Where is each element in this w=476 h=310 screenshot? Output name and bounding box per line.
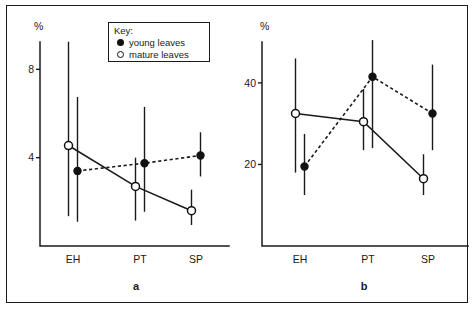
open-circle-icon — [114, 51, 126, 58]
legend-label-young-leaves: young leaves — [129, 37, 185, 48]
filled-circle-icon — [114, 39, 126, 46]
y-tick-label: 40 — [244, 77, 256, 89]
legend-item-mature-leaves: mature leaves — [114, 48, 209, 60]
data-point — [369, 73, 376, 80]
panel-letter: b — [361, 280, 368, 292]
x-category-label: EH — [293, 253, 308, 265]
data-point — [420, 175, 428, 183]
data-point — [188, 207, 196, 215]
data-point — [360, 118, 368, 126]
data-point — [292, 110, 300, 118]
chart-panel-a: 48%EHPTSPa Key: young leaves mature leav… — [0, 0, 238, 310]
x-category-label: PT — [361, 253, 375, 265]
data-point — [132, 182, 140, 190]
series-line — [69, 146, 192, 211]
chart-panel-b: 2040%EHPTSPb — [238, 0, 476, 310]
y-tick-label: 8 — [28, 63, 34, 75]
x-category-label: PT — [133, 253, 147, 265]
data-point — [429, 110, 436, 117]
panel-letter: a — [133, 280, 140, 292]
data-point — [301, 163, 308, 170]
data-point — [197, 152, 204, 159]
plot-area-b: 2040%EHPTSPb — [238, 0, 476, 310]
series-line — [305, 77, 433, 167]
y-axis-unit-label: % — [260, 20, 269, 32]
x-category-label: SP — [421, 253, 435, 265]
y-tick-label: 4 — [28, 151, 34, 163]
figure-root: 48%EHPTSPa Key: young leaves mature leav… — [0, 0, 476, 310]
x-category-label: SP — [189, 253, 203, 265]
data-point — [141, 160, 148, 167]
y-tick-label: 20 — [244, 158, 256, 170]
legend: Key: young leaves mature leaves — [108, 22, 210, 62]
data-point — [74, 167, 81, 174]
legend-item-young-leaves: young leaves — [114, 36, 209, 48]
y-axis-unit-label: % — [34, 20, 43, 32]
legend-label-mature-leaves: mature leaves — [129, 49, 189, 60]
data-point — [65, 142, 73, 150]
legend-title: Key: — [114, 25, 209, 36]
x-category-label: EH — [66, 253, 81, 265]
